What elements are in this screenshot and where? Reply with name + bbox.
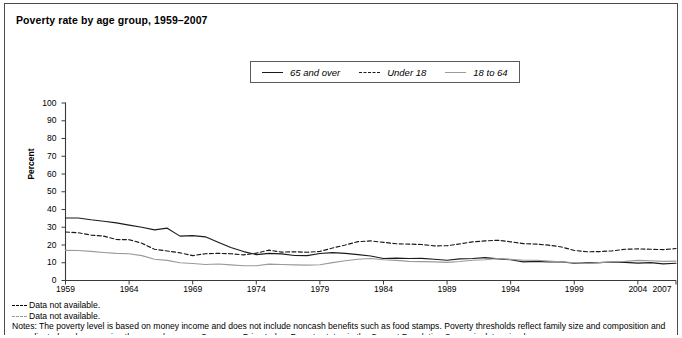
y-tick-label: 40 — [31, 205, 57, 214]
x-tick-label: 1969 — [173, 285, 213, 294]
x-tick-label: 1989 — [427, 285, 467, 294]
series-line — [66, 232, 677, 256]
dash-light-icon — [12, 311, 29, 322]
footnote-text: Data not available. — [29, 311, 100, 322]
plot-area: Percent 01020304050607080901001959196419… — [5, 4, 678, 335]
x-tick-label: 1984 — [363, 285, 403, 294]
footnote-row: Data not available. — [12, 300, 678, 311]
x-tick-label: 1959 — [46, 285, 86, 294]
y-tick-label: 90 — [31, 116, 57, 125]
x-tick-label: 1964 — [109, 285, 149, 294]
figure-panel: Poverty rate by age group, 1959–2007 65 … — [4, 3, 678, 335]
y-tick-label: 30 — [31, 223, 57, 232]
x-tick-label: 1994 — [491, 285, 531, 294]
x-tick-label: 1974 — [236, 285, 276, 294]
series-line — [66, 250, 677, 265]
footnote-text: Data not available. — [29, 300, 100, 311]
x-tick-label: 1979 — [300, 285, 340, 294]
x-tick-label: 1999 — [554, 285, 594, 294]
y-tick-label: 20 — [31, 241, 57, 250]
footnotes: Data not available. Data not available. — [12, 300, 678, 322]
y-tick-label: 100 — [31, 99, 57, 108]
y-tick-label: 70 — [31, 152, 57, 161]
y-tick-label: 0 — [31, 276, 57, 285]
y-tick-label: 80 — [31, 134, 57, 143]
y-tick-label: 60 — [31, 170, 57, 179]
dash-dark-icon — [12, 300, 29, 311]
notes-paragraph: Notes: The poverty level is based on mon… — [12, 321, 678, 335]
y-tick-label: 10 — [31, 258, 57, 267]
footnote-row: Data not available. — [12, 311, 678, 322]
y-tick-label: 50 — [31, 187, 57, 196]
x-tick-label: 2007 — [642, 285, 678, 294]
